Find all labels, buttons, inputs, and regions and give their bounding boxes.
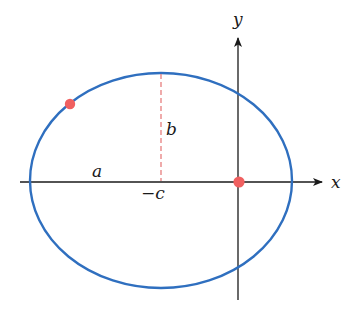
diagram-svg: y x a b −c [0,0,356,325]
ellipse-diagram: y x a b −c [0,0,356,325]
point-on-ellipse [65,99,75,109]
label-neg-c: −c [141,183,165,203]
x-axis-label: x [331,172,341,192]
focus-point-origin [233,176,244,187]
label-a: a [92,161,102,181]
y-axis-label: y [232,9,243,29]
label-b: b [166,119,177,139]
